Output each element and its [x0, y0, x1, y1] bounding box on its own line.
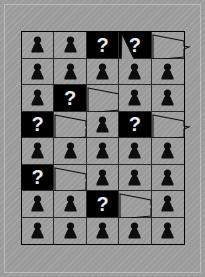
- pawn-icon: [161, 142, 174, 159]
- pawn-icon: [128, 63, 141, 80]
- speech-balloon: [151, 31, 193, 61]
- board-cell-r3-c2[interactable]: ?: [54, 85, 86, 112]
- board-cell-r7-c3[interactable]: ?: [87, 191, 119, 218]
- pawn-icon: [128, 142, 141, 159]
- board-cell-r8-c1[interactable]: [22, 218, 54, 245]
- board-cell-r4-c4[interactable]: ?: [119, 112, 151, 139]
- cell-grid: ???????: [22, 32, 184, 244]
- board-cell-r2-c1[interactable]: [22, 59, 54, 86]
- board-cell-r3-c1[interactable]: [22, 85, 54, 112]
- board-cell-r8-c3[interactable]: [87, 218, 119, 245]
- pawn-icon: [96, 169, 109, 186]
- board-cell-r6-c2[interactable]: [54, 165, 86, 192]
- board-cell-r5-c3[interactable]: [87, 138, 119, 165]
- board-cell-r8-c4[interactable]: [119, 218, 151, 245]
- puzzle-board: ???????: [21, 31, 185, 245]
- board-cell-r5-c2[interactable]: [54, 138, 86, 165]
- board-cell-r1-c1[interactable]: [22, 32, 54, 59]
- board-cell-r1-c4[interactable]: ?: [119, 32, 151, 59]
- question-mark-label: ?: [129, 35, 141, 55]
- pawn-icon: [31, 222, 44, 239]
- board-cell-r4-c3[interactable]: [87, 112, 119, 139]
- board-cell-r6-c1[interactable]: ?: [22, 165, 54, 192]
- pawn-icon: [31, 195, 44, 212]
- pawn-icon: [31, 36, 44, 53]
- pawn-icon: [128, 222, 141, 239]
- board-cell-r6-c3[interactable]: [87, 165, 119, 192]
- board-cell-r7-c4[interactable]: [119, 191, 151, 218]
- board-cell-r5-c5[interactable]: [152, 138, 184, 165]
- board-cell-r1-c3[interactable]: ?: [87, 32, 119, 59]
- question-mark-label: ?: [32, 167, 44, 187]
- pawn-icon: [64, 63, 77, 80]
- pawn-icon: [161, 89, 174, 106]
- board-cell-r3-c3[interactable]: [87, 85, 119, 112]
- pawn-icon: [161, 169, 174, 186]
- speech-balloon: [151, 111, 193, 141]
- pawn-icon: [96, 63, 109, 80]
- board-cell-r8-c2[interactable]: [54, 218, 86, 245]
- pawn-icon: [64, 36, 77, 53]
- board-cell-r4-c5[interactable]: [152, 112, 184, 139]
- board-cell-r3-c5[interactable]: [152, 85, 184, 112]
- puzzle-stage: ???????: [0, 0, 205, 277]
- board-cell-r3-c4[interactable]: [119, 85, 151, 112]
- board-cell-r5-c4[interactable]: [119, 138, 151, 165]
- pawn-icon: [161, 222, 174, 239]
- pawn-icon: [128, 169, 141, 186]
- board-cell-r2-c4[interactable]: [119, 59, 151, 86]
- pawn-icon: [161, 195, 174, 212]
- pawn-icon: [31, 63, 44, 80]
- pawn-icon: [31, 142, 44, 159]
- board-cell-r7-c2[interactable]: [54, 191, 86, 218]
- board-cell-r5-c1[interactable]: [22, 138, 54, 165]
- pawn-icon: [96, 116, 109, 133]
- question-mark-label: ?: [129, 114, 141, 134]
- question-mark-label: ?: [32, 114, 44, 134]
- board-cell-r2-c3[interactable]: [87, 59, 119, 86]
- pawn-icon: [64, 142, 77, 159]
- board-cell-r8-c5[interactable]: [152, 218, 184, 245]
- pawn-icon: [128, 89, 141, 106]
- board-cell-r4-c1[interactable]: ?: [22, 112, 54, 139]
- pawn-icon: [96, 222, 109, 239]
- question-mark-label: ?: [96, 194, 108, 214]
- question-mark-label: ?: [96, 35, 108, 55]
- pawn-icon: [96, 142, 109, 159]
- board-cell-r4-c2[interactable]: [54, 112, 86, 139]
- board-cell-r2-c2[interactable]: [54, 59, 86, 86]
- board-cell-r6-c5[interactable]: [152, 165, 184, 192]
- board-cell-r1-c5[interactable]: [152, 32, 184, 59]
- pawn-icon: [161, 63, 174, 80]
- board-cell-r2-c5[interactable]: [152, 59, 184, 86]
- question-mark-label: ?: [64, 88, 76, 108]
- board-cell-r7-c1[interactable]: [22, 191, 54, 218]
- board-cell-r7-c5[interactable]: [152, 191, 184, 218]
- board-cell-r6-c4[interactable]: [119, 165, 151, 192]
- pawn-icon: [31, 89, 44, 106]
- pawn-icon: [64, 195, 77, 212]
- board-cell-r1-c2[interactable]: [54, 32, 86, 59]
- pawn-icon: [64, 222, 77, 239]
